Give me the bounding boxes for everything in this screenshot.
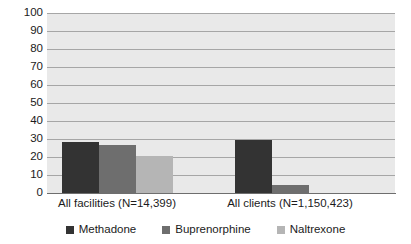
y-axis-tick-label: 100 (3, 7, 43, 19)
bar-buprenorphine (99, 145, 136, 194)
bar-naltrexone (136, 156, 173, 194)
legend-swatch-buprenorphine-icon (162, 226, 170, 234)
y-axis-tick-label: 90 (3, 25, 43, 37)
legend-label: Methadone (79, 224, 137, 236)
y-axis-tick-label: 30 (3, 133, 43, 145)
y-axis-tick-label: 50 (3, 97, 43, 109)
bar-group (62, 14, 173, 194)
y-axis: 1009080706050403020100 (0, 13, 43, 193)
legend-swatch-methadone-icon (66, 226, 74, 234)
y-axis-tick-label: 10 (3, 169, 43, 181)
legend-item-naltrexone: Naltrexone (277, 224, 346, 236)
bar-methadone (235, 140, 272, 194)
chart-legend: MethadoneBuprenorphineNaltrexone (0, 224, 411, 236)
legend-item-buprenorphine: Buprenorphine (162, 224, 250, 236)
x-axis-line (47, 193, 396, 194)
plot-area (47, 13, 395, 194)
bar-methadone (62, 142, 99, 194)
legend-label: Naltrexone (290, 224, 346, 236)
legend-label: Buprenorphine (175, 224, 250, 236)
legend-swatch-naltrexone-icon (277, 226, 285, 234)
y-axis-tick-label: 70 (3, 61, 43, 73)
y-axis-tick-label: 20 (3, 151, 43, 163)
bar-chart: 1009080706050403020100 MethadoneBuprenor… (0, 0, 411, 244)
bar-group (235, 14, 346, 194)
y-axis-tick-label: 80 (3, 43, 43, 55)
y-axis-tick-label: 40 (3, 115, 43, 127)
x-axis-category-label: All clients (N=1,150,423) (180, 198, 400, 210)
legend-item-methadone: Methadone (66, 224, 137, 236)
y-axis-tick-label: 60 (3, 79, 43, 91)
